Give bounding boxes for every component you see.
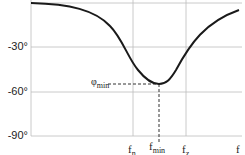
phi-min-label: φmin (91, 76, 109, 90)
x-tick-fz: fz (182, 143, 189, 155)
phase-curve (31, 3, 239, 84)
x-axis-label-f: f (236, 143, 240, 155)
x-tick-fn: fn (128, 143, 136, 155)
phi-min-markers (108, 84, 159, 142)
y-tick-minus30: -30° (0, 40, 28, 52)
y-tick-minus60: -60° (0, 85, 28, 97)
y-tick-minus90: -90° (0, 129, 28, 141)
phase-chart-plot (0, 0, 245, 155)
x-tick-fmin: fmin (149, 140, 165, 155)
